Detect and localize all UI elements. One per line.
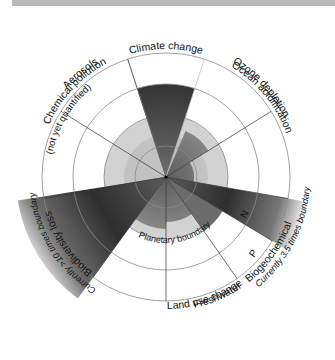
label-climate-change: Climate change: [127, 39, 204, 56]
planetary-boundaries-diagram: Climate change Ocean acidification Ozone…: [0, 0, 335, 360]
label-p: P: [247, 247, 260, 259]
label-ozone-depletion: Ozone depletion: [231, 54, 293, 119]
center-dot: [164, 175, 167, 178]
